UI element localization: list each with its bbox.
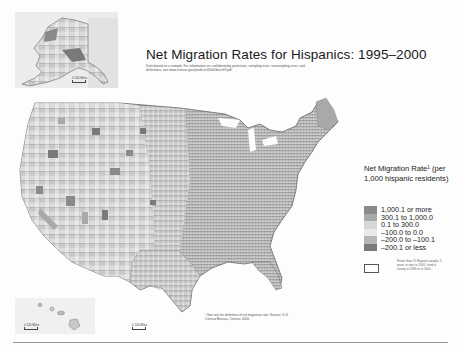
hawaii-scale-bar: 0 100 Miles	[24, 323, 39, 330]
atlas-page: Net Migration Rates for Hispanics: 1995–…	[0, 0, 457, 350]
legend-swatch	[364, 229, 377, 237]
legend-swatch	[364, 221, 377, 229]
hawaii-map	[38, 303, 80, 330]
legend-swatch	[364, 206, 377, 214]
legend-swatch	[364, 236, 377, 244]
legend-item: –200.1 or less	[364, 244, 435, 252]
legend-swatch	[364, 244, 377, 252]
alaska-scale-label: 0 100 Miles	[72, 76, 87, 80]
legend-title: Net Migration Rate¹ (per 1,000 hispanic …	[364, 164, 456, 184]
conus-map	[20, 98, 338, 312]
legend-label: –200.1 or less	[381, 244, 426, 252]
conus-scale-label: 0 100 Miles	[132, 323, 147, 327]
legend-no-data-note: Fewer than 15 Hispanic people, 5 years o…	[397, 260, 445, 271]
conus-scale-bar: 0 100 Miles	[132, 323, 147, 330]
hawaii-scale-label: 0 100 Miles	[24, 323, 39, 327]
map-title: Net Migration Rates for Hispanics: 1995–…	[146, 47, 427, 62]
legend-no-data-swatch	[364, 264, 379, 273]
map-footnote: ¹ See text for definition of net migrati…	[205, 313, 295, 321]
alaska-scale-bar: 0 100 Miles	[72, 76, 87, 83]
map-subtitle: Data based on a sample. For information …	[146, 64, 316, 72]
legend: 1,000.1 or more 300.1 to 1,000.0 0.1 to …	[364, 206, 435, 251]
alaska-map	[22, 18, 108, 86]
legend-swatch	[364, 214, 377, 222]
page-rule	[13, 342, 448, 343]
